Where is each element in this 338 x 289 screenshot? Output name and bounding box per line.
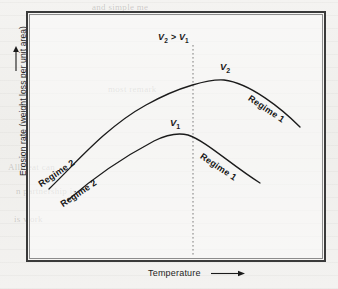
x-axis-label: Temperature [148,268,201,278]
inequality-operator: > [168,32,179,42]
curve-v1 [68,134,260,200]
plot-frame: V2 > V1 V2 V1 Regime 1 Regime 1 Regime 2… [26,11,326,262]
figure-page: and simple me most remark All heat can n… [0,0,338,289]
peak-v2-sub: 2 [226,67,230,74]
plot-canvas [28,13,320,256]
peak-label-v1: V1 [170,117,180,130]
peak-label-v2: V2 [220,61,230,74]
inequality-v1-sub: 1 [185,37,189,44]
x-axis-caption: Temperature [148,268,245,278]
right-arrow-icon [211,269,245,278]
peak-v1-sub: 1 [176,123,180,130]
inequality-label: V2 > V1 [158,32,189,44]
